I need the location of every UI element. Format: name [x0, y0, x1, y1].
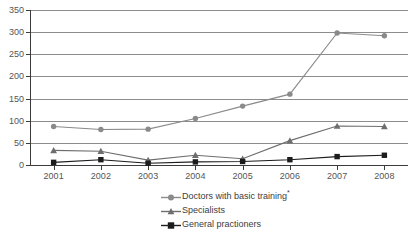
y-tick-label: 50 [14, 139, 24, 148]
y-tick-label: 150 [9, 95, 24, 104]
data-point [98, 127, 103, 132]
x-tick-mark [290, 166, 291, 170]
x-tick-label: 2006 [280, 172, 300, 181]
y-tick-label: 300 [9, 28, 24, 37]
y-tick-mark [26, 32, 31, 33]
data-point [287, 91, 292, 96]
data-point [240, 103, 245, 108]
footnote-marker: * [287, 189, 290, 196]
y-tick-label: 100 [9, 117, 24, 126]
circle-marker-icon [160, 189, 182, 200]
y-tick-label: 0 [19, 161, 24, 170]
data-point [193, 159, 198, 164]
series-line [54, 33, 385, 130]
x-tick-mark [337, 166, 338, 170]
series-layer [30, 10, 408, 166]
data-point [193, 116, 198, 121]
x-tick-label: 2007 [327, 172, 347, 181]
x-tick-mark [148, 166, 149, 170]
data-point [51, 124, 56, 129]
data-point [145, 126, 150, 131]
x-tick-mark [384, 166, 385, 170]
y-tick-label: 250 [9, 50, 24, 59]
data-point [334, 30, 339, 35]
x-tick-mark [243, 166, 244, 170]
series-circle [51, 30, 387, 132]
data-point [382, 33, 387, 38]
data-point [287, 157, 292, 162]
x-tick-mark [54, 166, 55, 170]
x-tick-mark [101, 166, 102, 170]
y-tick-mark [26, 10, 31, 11]
line-chart: Doctors with basic training* Specialists [0, 0, 412, 232]
series-square [51, 153, 387, 166]
y-tick-mark [26, 54, 31, 55]
x-tick-mark [195, 166, 196, 170]
x-tick-label: 2008 [374, 172, 394, 181]
data-point [51, 160, 56, 165]
chart-legend: Doctors with basic training* Specialists [160, 188, 290, 228]
legend-item-general-practioners[interactable]: General practioners [160, 216, 290, 228]
x-tick-label: 2001 [44, 172, 64, 181]
x-tick-label: 2003 [138, 172, 158, 181]
y-tick-mark [26, 165, 31, 166]
x-tick-label: 2005 [233, 172, 253, 181]
triangle-marker-icon [160, 203, 182, 214]
data-point [334, 154, 339, 159]
x-tick-label: 2004 [185, 172, 205, 181]
data-point [98, 157, 103, 162]
data-point [240, 159, 245, 164]
x-tick-label: 2002 [91, 172, 111, 181]
y-tick-mark [26, 76, 31, 77]
legend-label-doctors: Doctors with basic training* [182, 187, 290, 202]
y-tick-mark [26, 143, 31, 144]
legend-label-general-practioners: General practioners [182, 215, 261, 230]
y-tick-mark [26, 99, 31, 100]
y-tick-label: 350 [9, 6, 24, 15]
legend-item-doctors[interactable]: Doctors with basic training* [160, 188, 290, 200]
legend-label-specialists: Specialists [182, 201, 225, 216]
legend-item-specialists[interactable]: Specialists [160, 202, 290, 214]
data-point [382, 153, 387, 158]
y-tick-mark [26, 121, 31, 122]
square-marker-icon [160, 217, 182, 228]
y-tick-label: 200 [9, 72, 24, 81]
